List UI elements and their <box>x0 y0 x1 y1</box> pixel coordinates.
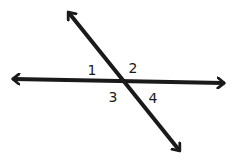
intersecting-lines-diagram: 1 2 3 4 <box>0 0 232 161</box>
angle-label-4: 4 <box>149 91 158 105</box>
angle-label-1: 1 <box>88 63 97 77</box>
horizontal-line <box>14 79 223 83</box>
angle-label-2: 2 <box>129 61 138 75</box>
diagram-canvas <box>0 0 232 161</box>
angle-label-3: 3 <box>109 90 118 104</box>
